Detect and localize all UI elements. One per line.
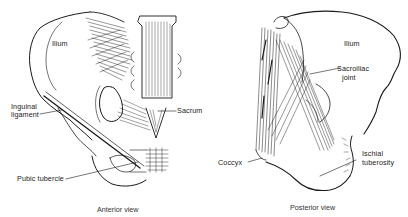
label-ilium-anterior: Ilium (52, 40, 68, 48)
label-ischial-tuberosity-line2: tuberosity (362, 159, 394, 167)
label-pubic-tubercle: Pubic tubercle (17, 175, 64, 183)
label-sacroiliac-joint-line2: joint (342, 74, 356, 82)
pelvis-illustration (0, 0, 408, 217)
label-sacrum: Sacrum (177, 107, 202, 115)
label-coccyx: Coccyx (218, 159, 242, 167)
label-ischial-tuberosity-line1: Ischial (362, 150, 383, 158)
label-inguinal-ligament-line2: ligament (11, 111, 39, 119)
caption-posterior-view: Posterior view (290, 203, 335, 212)
label-ilium-posterior: Ilium (344, 40, 360, 48)
caption-anterior-view: Anterior view (97, 205, 139, 214)
label-sacroiliac-joint-line1: Sacroiliac (337, 65, 369, 73)
pelvis-ligaments-figure: Ilium Inguinal ligament Sacrum Pubic tub… (0, 0, 408, 217)
